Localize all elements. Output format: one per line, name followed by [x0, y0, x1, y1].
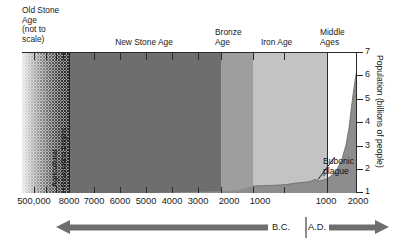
y-tick: [357, 52, 363, 53]
x-axis-label: 1000: [238, 197, 282, 206]
era-arrow-label-bc: B.C.: [272, 223, 290, 232]
bottom-tick-ad-zero: [327, 185, 328, 193]
top-tick: [63, 53, 64, 60]
bottom-tick: [146, 187, 147, 193]
bottom-tick: [34, 187, 35, 193]
top-tick: [94, 53, 95, 60]
top-tick: [46, 53, 47, 60]
plot-area: Agricultural Revolution begins: [22, 52, 357, 193]
top-tick: [172, 53, 173, 60]
era-label-old-stone-age: Old Stone Age (not to scale): [22, 6, 84, 44]
annotation-agricultural-line2: Revolution begins: [60, 127, 68, 187]
top-tick: [34, 53, 35, 60]
top-tick: [120, 53, 121, 60]
era-label-iron-age: Iron Age: [261, 38, 313, 48]
bottom-tick: [172, 187, 173, 193]
top-tick: [146, 53, 147, 60]
bottom-tick: [94, 187, 95, 193]
y-axis-title: Population (billions of people): [375, 55, 385, 168]
population-timeline-chart: Old Stone Age (not to scale) New Stone A…: [0, 0, 411, 244]
ad-arrow-shaft: [329, 225, 375, 231]
y-tick: [357, 99, 363, 100]
y-tick: [357, 75, 363, 76]
population-curve: [22, 53, 357, 193]
era-direction-arrows: [0, 214, 411, 244]
era-label-bronze-age: Bronze Age: [215, 28, 255, 47]
bc-arrowhead: [56, 220, 70, 234]
bottom-tick: [46, 187, 47, 193]
top-tick: [56, 53, 57, 60]
top-tick: [284, 53, 285, 60]
bc-arrow-shaft: [70, 225, 268, 231]
era-label-middle-ages: Middle Ages: [320, 28, 364, 47]
y-tick: [357, 192, 363, 193]
bottom-tick: [63, 187, 64, 193]
x-axis-label: 2000: [336, 197, 380, 206]
bottom-tick: [69, 187, 70, 193]
y-tick: [357, 122, 363, 123]
era-label-new-stone-age: New Stone Age: [85, 38, 203, 48]
top-tick: [327, 53, 328, 60]
bottom-tick: [221, 187, 222, 193]
bottom-tick: [56, 187, 57, 193]
y-axis-label: 1: [365, 187, 377, 196]
era-arrow-label-ad: A.D.: [308, 223, 326, 232]
top-tick: [198, 53, 199, 60]
top-tick: [253, 53, 254, 60]
top-tick: [221, 53, 222, 60]
bottom-tick: [198, 187, 199, 193]
bottom-tick: [253, 187, 254, 193]
bottom-tick: [120, 187, 121, 193]
annotation-bubonic-plague: Bubonic plague: [323, 156, 371, 176]
bottom-tick: [284, 187, 285, 193]
ad-arrowhead: [375, 220, 389, 234]
y-tick: [357, 146, 363, 147]
